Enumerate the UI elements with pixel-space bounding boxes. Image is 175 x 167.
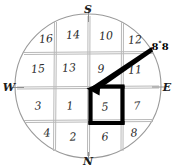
grid-cell-10: 10 — [99, 30, 114, 42]
compass-label-east: E — [163, 82, 171, 93]
compass-label-north: N — [83, 156, 93, 167]
grid-cell-13: 13 — [62, 62, 77, 74]
grid-cell-4: 4 — [43, 127, 51, 138]
diagram-canvas — [0, 0, 175, 167]
grid-cell-8: 8 — [130, 127, 138, 138]
compass-label-west: W — [3, 82, 15, 93]
grid-cell-1: 1 — [66, 100, 74, 111]
compass-grid-diagram: S N W E 8°8 16 14 10 12 15 13 9 11 3 1 5… — [0, 0, 175, 167]
angle-suffix: 8 — [162, 41, 169, 52]
compass-label-south: S — [84, 4, 92, 15]
grid-cell-6: 6 — [101, 131, 109, 142]
grid-cell-15: 15 — [31, 63, 46, 75]
grid-cell-3: 3 — [34, 100, 42, 111]
grid-cell-7: 7 — [133, 100, 141, 111]
grid-cell-16: 16 — [39, 33, 54, 45]
grid-cell-9: 9 — [97, 63, 105, 74]
grid-cell-12: 12 — [128, 34, 143, 46]
grid-cell-2: 2 — [69, 131, 77, 142]
grid-cell-5: 5 — [101, 101, 109, 112]
grid-cell-14: 14 — [66, 29, 81, 41]
grid-cell-11: 11 — [128, 64, 143, 76]
angle-annotation: 8°8 — [152, 42, 169, 52]
angle-value: 8 — [152, 41, 159, 52]
